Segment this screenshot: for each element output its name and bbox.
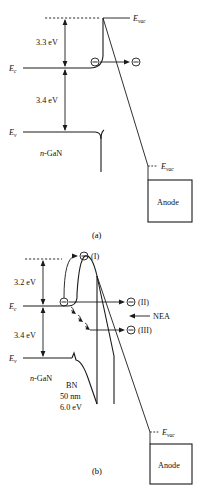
caption-a: (a): [92, 230, 102, 240]
electron-path-II-b: [127, 298, 135, 306]
path-I-tag-b: (I): [91, 252, 99, 261]
path-II-arrow-head-b: [119, 300, 125, 305]
panel-b: 3.2 eV Ec 3.4 eV Ev n-GaN BN 50 nm: [8, 252, 192, 485]
ev-label-a: Ev: [8, 128, 17, 138]
bn-barrier-curve-b: [77, 256, 114, 356]
ec-label-a: Ec: [8, 64, 17, 74]
surface-barrier-curve-a: [90, 18, 103, 68]
electron-emitted-a: [132, 58, 140, 66]
barrier-arrow-head-up-b: [41, 260, 46, 266]
bandgap-arrow-head-down-a: [63, 125, 68, 131]
anode-label-a: Anode: [157, 198, 179, 207]
barrier-energy-label-a: 3.3 eV: [36, 38, 58, 47]
emission-arrow-head-a: [124, 60, 130, 65]
bn-name-label-b: BN: [66, 381, 77, 390]
electron-source-b: [60, 298, 68, 306]
barrier-arrow-head-down-a: [63, 61, 68, 67]
material-label-b: n-GaN: [30, 374, 52, 383]
path-III-arrow-head-b: [119, 328, 125, 333]
nea-label-b: NEA: [153, 312, 170, 321]
path-III-hopping-arrows-b: [71, 307, 90, 330]
ev-label-b: Ev: [8, 354, 17, 364]
panel-a: Evac 3.3 eV Ec 3.4 eV Ev n-GaN: [8, 14, 192, 241]
anode-label-b: Anode: [158, 461, 180, 470]
conduction-band-notch-b: [68, 294, 77, 306]
ec-label-b: Ec: [8, 302, 17, 312]
material-label-a: n-GaN: [40, 149, 62, 158]
path-III-tag-b: (III): [138, 326, 152, 335]
bn-thickness-label-b: 50 nm: [60, 392, 81, 401]
evac-anode-label-a: Evac: [160, 162, 174, 172]
barrier-arrow-head-down-b: [41, 299, 46, 305]
caption-b: (b): [92, 466, 102, 476]
bandgap-energy-label-b: 3.4 eV: [14, 331, 36, 340]
bandgap-arrow-head-up-b: [41, 307, 46, 313]
valence-band-tip-a: [101, 130, 104, 139]
vacuum-slope-line-a: [103, 18, 148, 166]
bandgap-arrow-head-down-b: [41, 351, 46, 357]
diagram-canvas: Evac 3.3 eV Ec 3.4 eV Ev n-GaN: [0, 0, 199, 486]
bandgap-arrow-head-up-a: [63, 69, 68, 75]
energy-band-diagram-figure: Evac 3.3 eV Ec 3.4 eV Ev n-GaN: [0, 0, 199, 486]
electron-surface-a: [91, 58, 99, 66]
evac-label-a: Evac: [132, 14, 146, 24]
nea-arrow-head-b: [129, 314, 135, 319]
electron-path-III-b: [127, 326, 135, 334]
evac-anode-label-b: Evac: [161, 428, 175, 438]
bandgap-energy-label-a: 3.4 eV: [36, 96, 58, 105]
barrier-arrow-head-up-a: [63, 19, 68, 25]
path-I-arrow-head-b: [72, 254, 78, 259]
path-I-arrow-b: [64, 256, 75, 298]
path-II-tag-b: (II): [138, 298, 149, 307]
bn-energy-label-b: 6.0 eV: [60, 403, 82, 412]
valence-band-surface-a: [95, 132, 101, 172]
barrier-energy-label-b: 3.2 eV: [14, 278, 36, 287]
